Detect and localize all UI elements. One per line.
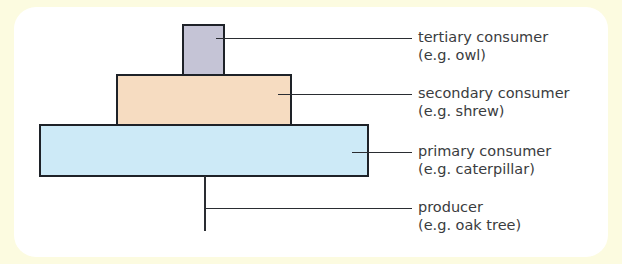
level-example: (e.g. oak tree) — [418, 216, 521, 234]
primary-consumer-label: primary consumer (e.g. caterpillar) — [418, 142, 551, 178]
tertiary-leader-line — [216, 38, 412, 39]
level-name: tertiary consumer — [418, 28, 548, 46]
producer-leader-line — [206, 208, 412, 209]
level-example: (e.g. owl) — [418, 46, 548, 64]
tertiary-consumer-bar — [182, 24, 225, 76]
level-example: (e.g. caterpillar) — [418, 160, 551, 178]
level-name: secondary consumer — [418, 84, 570, 102]
secondary-consumer-label: secondary consumer (e.g. shrew) — [418, 84, 570, 120]
secondary-consumer-bar — [116, 74, 292, 126]
primary-leader-line — [352, 152, 412, 153]
level-name: primary consumer — [418, 142, 551, 160]
producer-bar — [204, 176, 206, 231]
secondary-leader-line — [278, 94, 412, 95]
tertiary-consumer-label: tertiary consumer (e.g. owl) — [418, 28, 548, 64]
producer-label: producer (e.g. oak tree) — [418, 198, 521, 234]
level-example: (e.g. shrew) — [418, 102, 570, 120]
level-name: producer — [418, 198, 521, 216]
primary-consumer-bar — [39, 124, 369, 177]
